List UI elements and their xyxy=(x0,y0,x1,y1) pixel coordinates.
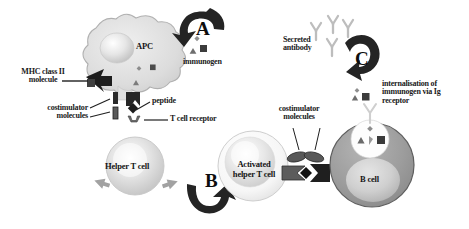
label-secreted-antibody: Secreted antibody xyxy=(283,36,331,53)
costimulator-molecule-2 xyxy=(303,150,325,164)
label-helper-t-cell: Helper T cell xyxy=(105,162,149,171)
step-label-b: B xyxy=(205,170,218,192)
label-costimulator-left: costimulator molecules xyxy=(22,104,88,121)
label-apc: APC xyxy=(136,42,153,51)
antibody-y-3 xyxy=(343,20,353,37)
immunogen-bound-symbol xyxy=(352,88,370,101)
b-cell xyxy=(330,104,414,207)
t-b-cell-synapse xyxy=(282,128,330,182)
apc-nucleus xyxy=(100,33,134,63)
label-t-cell-receptor: T cell receptor xyxy=(170,115,216,123)
costimulator-left-leader xyxy=(90,112,110,117)
t-cell-receptor-symbol xyxy=(128,116,140,122)
label-activated-helper-t-cell-line1: Activated xyxy=(228,160,280,169)
label-costimulator-right: costimulator molecules xyxy=(268,105,330,122)
label-immunogen: immunogen xyxy=(183,58,222,66)
immunology-diagram: MHC class II molecule APC A immunogen pe… xyxy=(0,0,469,229)
step-label-c: C xyxy=(355,48,369,70)
label-peptide: peptide xyxy=(152,97,176,105)
label-b-cell: B cell xyxy=(360,175,379,184)
label-activated-helper-t-cell-line2: helper T cell xyxy=(222,170,286,179)
label-internalisation: internalisation of immunogen via Ig rece… xyxy=(382,80,469,105)
step-label-a: A xyxy=(196,18,210,40)
label-mhc-class-ii: MHC class II molecule xyxy=(13,68,73,85)
costimulator-bar-apc-2 xyxy=(113,107,118,119)
mhc-class-ii-complex xyxy=(113,92,140,122)
antibody-y-2 xyxy=(328,16,338,33)
costimulator-left-leader-2 xyxy=(90,99,110,108)
costimulator-bar-apc-1 xyxy=(113,92,118,104)
